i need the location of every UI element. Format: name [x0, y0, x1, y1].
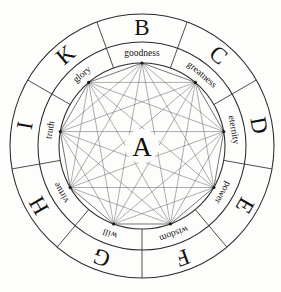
outer-letter-d: D: [245, 115, 273, 136]
vertex-dot-wisdom: [169, 222, 172, 225]
sector-divider-outer: [97, 22, 107, 48]
outer-letter-i: I: [12, 119, 38, 131]
wheel-svg: A BgoodnessCgreatnessDeternityEpowerFwis…: [0, 0, 281, 292]
inner-word-truth: truth: [43, 120, 56, 140]
sector-divider-outer: [57, 226, 75, 247]
outer-letter-g: G: [89, 243, 113, 272]
vertex-dot-will: [112, 222, 115, 225]
inner-word-eternity: eternity: [227, 115, 242, 146]
inner-word-goodness: goodness: [124, 48, 160, 58]
outer-letter-c: C: [205, 40, 233, 69]
sector-divider-outer: [232, 80, 256, 94]
inner-word-will: will: [101, 227, 119, 242]
outer-letter-b: B: [134, 15, 149, 40]
sector-divider-outer: [244, 164, 272, 169]
polygon-edge: [170, 188, 213, 224]
sector-divider-inner: [224, 160, 245, 164]
outer-letter-e: E: [231, 193, 260, 218]
sector-divider-inner: [75, 210, 89, 226]
sector-divider-outer: [209, 226, 227, 247]
sector-divider-inner: [52, 94, 70, 105]
vertex-dot-power: [212, 186, 215, 189]
sector-divider-outer: [12, 164, 40, 169]
outer-letter-f: F: [172, 244, 193, 272]
center-essence: A: [132, 132, 152, 162]
sector-divider-inner: [170, 48, 177, 68]
vertex-dot-glory: [87, 81, 90, 84]
sector-divider-outer: [178, 22, 188, 48]
sector-divider-outer: [28, 80, 52, 94]
vertex-dot-greatness: [194, 81, 197, 84]
center-label-layer: A: [125, 129, 159, 163]
outer-letter-h: H: [24, 192, 54, 219]
vertex-dot-eternity: [222, 130, 225, 133]
polygon-edge: [89, 63, 142, 82]
polygon-edge: [70, 188, 113, 224]
sector-divider-inner: [214, 94, 232, 105]
sector-divider-inner: [40, 160, 61, 164]
vertex-dot-virtue: [69, 186, 72, 189]
vertex-dot-truth: [59, 130, 62, 133]
sector-divider-inner: [195, 210, 209, 226]
vertex-dot-goodness: [140, 61, 143, 64]
sector-divider-inner: [106, 48, 113, 68]
circular-attribute-diagram: A BgoodnessCgreatnessDeternityEpowerFwis…: [0, 0, 281, 292]
